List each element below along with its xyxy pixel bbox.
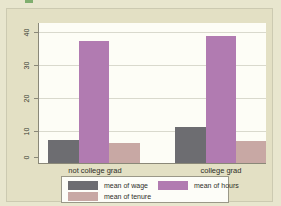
x-axis-label-not-college-grad: not college grad (47, 166, 143, 175)
y-tick-label-20: 20 (21, 93, 33, 103)
legend-item-wage: mean of wage (68, 181, 148, 190)
legend-label-wage: mean of wage (104, 182, 148, 189)
screenshot-root: 40 30 20 10 0 (0, 0, 281, 206)
legend-label-hours: mean of hours (194, 182, 239, 189)
y-tick-label-30: 30 (21, 60, 33, 70)
y-tick-label-0: 0 (21, 152, 33, 162)
legend-label-tenure: mean of tenure (104, 193, 151, 200)
legend-swatch-tenure (68, 192, 98, 201)
green-corner-marker (25, 0, 33, 3)
bar-college-grad-hours (206, 36, 237, 163)
bar-not-college-grad-hours (79, 41, 110, 163)
gridline-40 (39, 32, 266, 33)
bar-college-grad-wage (175, 127, 206, 163)
legend-swatch-hours (158, 181, 188, 190)
chart-figure: 40 30 20 10 0 (7, 9, 272, 201)
chart-legend: mean of wage mean of tenure mean of hour… (61, 176, 229, 203)
legend-swatch-wage (68, 181, 98, 190)
legend-item-hours: mean of hours (158, 181, 239, 190)
bar-not-college-grad-wage (48, 140, 79, 163)
y-tick-label-10: 10 (21, 126, 33, 136)
x-axis-label-college-grad: college grad (173, 166, 269, 175)
plot-inner (39, 23, 266, 163)
y-tick-label-40: 40 (21, 27, 33, 37)
plot-area (38, 23, 266, 164)
legend-item-tenure: mean of tenure (68, 192, 151, 201)
bar-not-college-grad-tenure (109, 143, 140, 163)
bar-college-grad-tenure (236, 141, 266, 163)
